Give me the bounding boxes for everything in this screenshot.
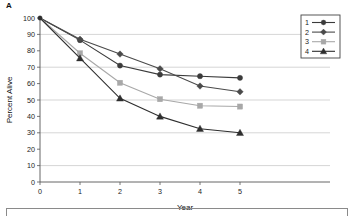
x-tick-labels: 012345 bbox=[38, 187, 242, 196]
data-point-square bbox=[237, 104, 242, 109]
y-axis-title: Percent Alive bbox=[5, 76, 14, 123]
legend-label-2[interactable]: 2 bbox=[305, 28, 309, 37]
y-tick-label: 70 bbox=[27, 63, 35, 72]
y-tick-label: 60 bbox=[27, 79, 35, 88]
series-3 bbox=[40, 18, 243, 109]
data-point-circle bbox=[197, 74, 202, 79]
y-tick-label: 90 bbox=[27, 30, 35, 39]
data-point-diamond bbox=[237, 89, 244, 96]
x-tick-label: 0 bbox=[38, 187, 42, 196]
series-line-2 bbox=[40, 18, 240, 92]
y-tick-label: 10 bbox=[27, 161, 35, 170]
series-2 bbox=[40, 18, 243, 95]
legend-label-4[interactable]: 4 bbox=[305, 47, 309, 56]
data-point-circle bbox=[117, 63, 122, 68]
legend-label-3[interactable]: 3 bbox=[305, 37, 309, 46]
chart-legend[interactable]: 1234 bbox=[301, 15, 340, 58]
data-point-square bbox=[117, 80, 122, 85]
data-point-circle bbox=[237, 75, 242, 80]
data-point-square bbox=[321, 39, 326, 44]
legend-label-1[interactable]: 1 bbox=[305, 18, 309, 27]
data-point-diamond bbox=[197, 83, 204, 90]
next-panel-border bbox=[6, 208, 348, 216]
data-point-circle bbox=[157, 72, 162, 77]
chart-svg: 0102030405060708090100 012345 1234 Year … bbox=[0, 0, 350, 216]
data-point-square bbox=[197, 103, 202, 108]
y-tick-label: 0 bbox=[31, 178, 35, 187]
data-point-circle bbox=[321, 20, 326, 25]
y-tick-label: 50 bbox=[27, 96, 35, 105]
tick-marks bbox=[37, 18, 240, 185]
y-tick-label: 30 bbox=[27, 128, 35, 137]
x-tick-label: 4 bbox=[198, 187, 202, 196]
survival-chart: 0102030405060708090100 012345 1234 Year … bbox=[0, 0, 350, 216]
data-point-triangle bbox=[156, 113, 163, 119]
data-point-circle bbox=[38, 16, 42, 20]
series-line-3 bbox=[40, 18, 240, 107]
y-tick-label: 100 bbox=[23, 14, 35, 23]
y-tick-label: 20 bbox=[27, 145, 35, 154]
x-tick-label: 5 bbox=[238, 187, 242, 196]
x-tick-label: 2 bbox=[118, 187, 122, 196]
data-point-square bbox=[157, 97, 162, 102]
data-series bbox=[38, 16, 244, 136]
gridlines bbox=[40, 34, 330, 165]
x-tick-label: 1 bbox=[78, 187, 82, 196]
data-point-diamond bbox=[157, 66, 164, 73]
y-tick-label: 40 bbox=[27, 112, 35, 121]
data-point-diamond bbox=[117, 51, 124, 58]
y-tick-labels: 0102030405060708090100 bbox=[23, 14, 35, 187]
x-tick-label: 3 bbox=[158, 187, 162, 196]
y-tick-label: 80 bbox=[27, 46, 35, 55]
